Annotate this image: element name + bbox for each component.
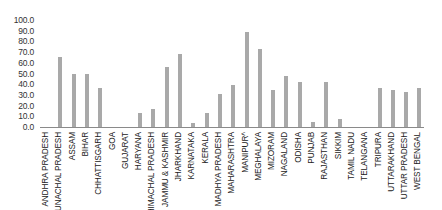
bar: [298, 82, 302, 127]
x-tick-label: KARNATAKA: [187, 132, 197, 210]
x-tick-label-text: UTTARAKHAND: [387, 132, 397, 192]
x-tick-label: TELANGANA: [360, 132, 370, 210]
x-tick-label: NAGALAND: [280, 132, 290, 210]
bar-chart: 100.090.080.070.060.050.040.030.020.010.…: [0, 0, 442, 210]
bar: [258, 49, 262, 127]
x-tick-label-text: TELANGANA: [360, 132, 370, 181]
y-tick-label: 30.0: [0, 90, 34, 100]
bar: [271, 90, 275, 127]
bar: [165, 67, 169, 127]
x-tick-label-text: MAHARASHTRA: [227, 132, 237, 194]
x-tick-label-text: BIHAR: [81, 132, 91, 157]
x-tick-label-text: GOA: [108, 132, 118, 150]
x-tick-label-text: HARYANA: [134, 132, 144, 170]
x-tick-label: KERALA: [201, 132, 211, 210]
bar: [311, 122, 315, 127]
x-tick-label: GUJARAT: [121, 132, 131, 210]
bar: [245, 32, 249, 127]
x-tick-label-text: GUJARAT: [121, 132, 131, 169]
x-tick-label-text: MEGHALAYA: [254, 132, 264, 181]
bar: [391, 90, 395, 127]
x-tick-label: MEGHALAYA: [254, 132, 264, 210]
y-tick-label: 80.0: [0, 36, 34, 46]
bar: [191, 123, 195, 127]
x-tick-label: WEST BENGAL: [413, 132, 423, 210]
x-tick-label-text: TAMIL NADU: [347, 132, 357, 180]
x-tick-label-text: PUNJAB: [307, 132, 317, 164]
y-tick-label: 40.0: [0, 79, 34, 89]
x-tick-label: UTTAR PRADESH: [400, 132, 410, 210]
x-tick-label: UTTARAKHAND: [387, 132, 397, 210]
y-tick-label: 10.0: [0, 111, 34, 121]
bar: [58, 57, 62, 127]
bar: [178, 54, 182, 127]
bar: [98, 88, 102, 127]
x-tick-label: MIZORAM: [267, 132, 277, 210]
x-tick-label-text: UTTAR PRADESH: [400, 132, 410, 199]
x-tick-label: ASSAM: [68, 132, 78, 210]
bar: [378, 88, 382, 127]
x-tick-label: TRIPURA: [374, 132, 384, 210]
x-tick-label: JHARKHAND: [174, 132, 184, 210]
x-tick-label-text: ARUNACHAL PRADESH: [54, 132, 64, 210]
x-tick-label-text: SIKKIM: [334, 132, 344, 159]
x-tick-label: MADHYA PRADESH: [214, 132, 224, 210]
x-tick-label-text: JAMMU & KASHMIR: [161, 132, 171, 207]
bar: [218, 94, 222, 127]
y-tick-label: 70.0: [0, 47, 34, 57]
x-tick-label-text: MIZORAM: [267, 132, 277, 170]
bar: [85, 74, 89, 128]
x-tick-label-text: NAGALAND: [280, 132, 290, 176]
x-tick-label: SIKKIM: [334, 132, 344, 210]
x-tick-label: ODISHA: [294, 132, 304, 210]
x-tick-label-text: ANDHRA PRADESH: [41, 132, 51, 207]
bar: [205, 113, 209, 127]
bar: [138, 113, 142, 127]
x-tick-label-text: WEST BENGAL: [413, 132, 423, 190]
x-tick-label-text: ASSAM: [68, 132, 78, 160]
x-tick-label-text: CHHATTISGARH: [94, 132, 104, 195]
x-tick-label: TAMIL NADU: [347, 132, 357, 210]
bar: [72, 74, 76, 127]
y-tick-label: 20.0: [0, 101, 34, 111]
bar: [404, 92, 408, 127]
bar: [417, 88, 421, 127]
x-tick-label: ANDHRA PRADESH: [41, 132, 51, 210]
x-tick-label: HARYANA: [134, 132, 144, 210]
x-tick-label-text: MANIPUR^: [241, 132, 251, 173]
x-tick-label-text: TRIPURA: [374, 132, 384, 167]
bar: [324, 82, 328, 127]
x-tick-label: BIHAR: [81, 132, 91, 210]
y-tick-label: 0.0: [0, 122, 34, 132]
y-tick-label: 90.0: [0, 26, 34, 36]
x-tick-label: PUNJAB: [307, 132, 317, 210]
bar: [151, 109, 155, 127]
x-tick-label-text: KERALA: [201, 132, 211, 164]
y-tick-label: 100.0: [0, 15, 34, 25]
x-tick-label: MANIPUR^: [241, 132, 251, 210]
x-tick-label-text: HIMACHAL PRADESH: [147, 132, 157, 210]
x-tick-label-text: RAJASTHAN: [320, 132, 330, 180]
x-tick-label: CHHATTISGARH: [94, 132, 104, 210]
x-axis-line: [40, 127, 424, 128]
x-tick-label: MAHARASHTRA: [227, 132, 237, 210]
x-tick-label: GOA: [108, 132, 118, 210]
x-tick-label: HIMACHAL PRADESH: [147, 132, 157, 210]
x-tick-label-text: ODISHA: [294, 132, 304, 163]
x-tick-label: RAJASTHAN: [320, 132, 330, 210]
x-tick-label: ARUNACHAL PRADESH: [54, 132, 64, 210]
y-tick-label: 60.0: [0, 58, 34, 68]
y-tick-label: 50.0: [0, 69, 34, 79]
bar: [338, 119, 342, 127]
x-tick-label-text: KARNATAKA: [187, 132, 197, 179]
bar: [284, 76, 288, 127]
x-tick-label: JAMMU & KASHMIR: [161, 132, 171, 210]
x-tick-label-text: JHARKHAND: [174, 132, 184, 181]
bar: [231, 85, 235, 127]
x-tick-label-text: MADHYA PRADESH: [214, 132, 224, 206]
